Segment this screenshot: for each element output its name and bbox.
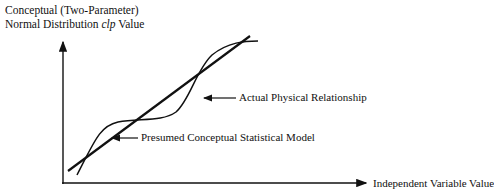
presumed-model-line: [68, 36, 250, 171]
x-axis-label: Independent Variable Value: [373, 177, 494, 189]
actual-relationship-curve: [77, 41, 258, 175]
presumed-model-label: Presumed Conceptual Statistical Model: [141, 131, 315, 143]
actual-relationship-label: Actual Physical Relationship: [239, 91, 367, 103]
